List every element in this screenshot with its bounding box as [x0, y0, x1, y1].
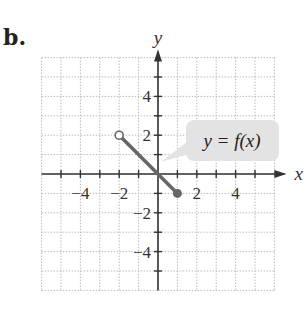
y-axis-arrow-icon	[154, 50, 162, 62]
x-tick-label: −4	[71, 184, 90, 203]
x-axis-arrow-icon	[274, 170, 286, 178]
callout-label: y = f(x)	[201, 130, 260, 152]
x-tick-label: −2	[110, 184, 128, 203]
x-tick-label: 4	[231, 184, 240, 203]
open-endpoint	[115, 131, 123, 139]
y-tick-label: 4	[143, 87, 152, 106]
closed-endpoint	[173, 189, 182, 198]
y-tick-label: −2	[133, 204, 151, 223]
y-tick-label: 2	[143, 126, 152, 145]
x-tick-label: 2	[193, 184, 202, 203]
figure: b. −4−22442−2−4xyy = f(x)	[0, 0, 307, 319]
x-axis-label: x	[293, 163, 303, 184]
y-tick-label: −4	[133, 243, 152, 262]
coordinate-plane: −4−22442−2−4xyy = f(x)	[0, 0, 307, 319]
y-axis-label: y	[152, 27, 163, 48]
